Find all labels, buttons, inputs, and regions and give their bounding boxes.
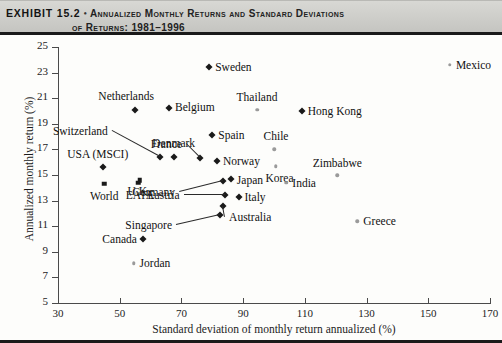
data-point-marker[interactable] <box>102 182 107 187</box>
data-point-marker[interactable] <box>132 262 136 266</box>
data-point-marker[interactable] <box>221 192 228 199</box>
data-point-marker[interactable] <box>448 63 452 67</box>
data-point-marker[interactable] <box>139 235 146 242</box>
label-leader-line <box>184 194 225 195</box>
data-point-label: Sweden <box>215 61 251 73</box>
data-point-marker[interactable] <box>336 173 340 177</box>
data-point-marker[interactable] <box>136 180 141 185</box>
y-tick-mark <box>52 149 58 150</box>
y-tick-mark <box>52 252 58 253</box>
data-point-marker[interactable] <box>99 164 106 171</box>
scatter-plot: 5791113151719212325 30507090110130150170… <box>0 35 502 343</box>
data-point-label: France <box>151 138 182 150</box>
data-point-label: Korea <box>265 172 293 184</box>
data-point-label: Thailand <box>237 91 278 103</box>
y-tick-mark <box>52 98 58 99</box>
x-tick-label: 150 <box>420 307 437 319</box>
data-point-label: Singapore <box>125 219 172 231</box>
data-point-label: Hong Kong <box>308 105 362 117</box>
data-point-label: Netherlands <box>98 90 154 102</box>
x-tick-label: 30 <box>53 307 64 319</box>
data-point-marker[interactable] <box>170 154 177 161</box>
exhibit-header-banner: EXHIBIT 15.2•Annualized Monthly Returns … <box>0 0 502 33</box>
data-point-marker[interactable] <box>272 148 276 152</box>
data-point-marker[interactable] <box>209 132 216 139</box>
x-tick-mark <box>243 298 244 304</box>
data-point-label: USA (MSCI) <box>67 148 128 160</box>
exhibit-number: EXHIBIT 15.2 <box>6 7 80 19</box>
data-point-label: Austria <box>146 189 180 201</box>
x-tick-mark <box>367 298 368 304</box>
x-tick-mark <box>428 298 429 304</box>
x-tick-mark <box>58 298 59 304</box>
data-point-label: Jordan <box>140 257 171 269</box>
data-point-label: Spain <box>218 129 244 141</box>
x-tick-label: 110 <box>297 307 313 319</box>
x-tick-label: 130 <box>358 307 375 319</box>
x-tick-mark <box>120 298 121 304</box>
data-point-label: Canada <box>102 233 136 245</box>
data-point-marker[interactable] <box>206 64 213 71</box>
y-tick-mark <box>52 226 58 227</box>
data-point-label: Norway <box>223 155 260 167</box>
data-point-marker[interactable] <box>255 108 259 112</box>
data-point-label: Italy <box>245 191 266 203</box>
y-tick-mark <box>52 73 58 74</box>
data-point-label: Belgium <box>175 101 215 113</box>
exhibit-figure: EXHIBIT 15.2•Annualized Monthly Returns … <box>0 0 502 343</box>
data-point-label: Zimbabwe <box>313 157 362 169</box>
data-point-label: Mexico <box>456 59 491 71</box>
data-point-marker[interactable] <box>285 181 289 185</box>
data-point-marker[interactable] <box>356 219 360 223</box>
y-axis-line <box>58 47 59 303</box>
data-point-label: Japan <box>237 174 263 186</box>
x-tick-label: 70 <box>176 307 187 319</box>
x-tick-mark <box>181 298 182 304</box>
y-tick-label: 25 <box>0 39 48 51</box>
data-point-label: Switzerland <box>53 125 108 137</box>
x-tick-mark <box>305 298 306 304</box>
y-tick-label: 5 <box>0 295 48 307</box>
data-point-marker[interactable] <box>213 157 220 164</box>
data-point-marker[interactable] <box>235 193 242 200</box>
data-point-label: Chile <box>264 130 289 142</box>
label-leader-line <box>179 180 223 192</box>
y-tick-mark <box>52 201 58 202</box>
y-tick-mark <box>52 277 58 278</box>
data-point-label: Greece <box>363 215 396 227</box>
data-point-label: World <box>90 190 118 202</box>
y-tick-mark <box>52 47 58 48</box>
y-axis-title: Annualized monthly return (%) <box>23 59 35 279</box>
label-leader-line <box>176 214 220 225</box>
data-point-label: India <box>292 177 316 189</box>
data-point-marker[interactable] <box>166 105 173 112</box>
data-point-marker[interactable] <box>227 175 234 182</box>
x-tick-label: 170 <box>482 307 499 319</box>
data-point-label: Australia <box>229 211 271 223</box>
x-tick-label: 50 <box>114 307 125 319</box>
x-tick-mark <box>490 298 491 304</box>
x-axis-line <box>58 303 490 304</box>
x-tick-label: 90 <box>238 307 249 319</box>
y-tick-mark <box>52 175 58 176</box>
data-point-marker[interactable] <box>298 107 305 114</box>
data-point-marker[interactable] <box>132 106 139 113</box>
x-axis-title: Standard deviation of monthly return ann… <box>58 323 490 335</box>
data-point-marker[interactable] <box>274 164 278 168</box>
